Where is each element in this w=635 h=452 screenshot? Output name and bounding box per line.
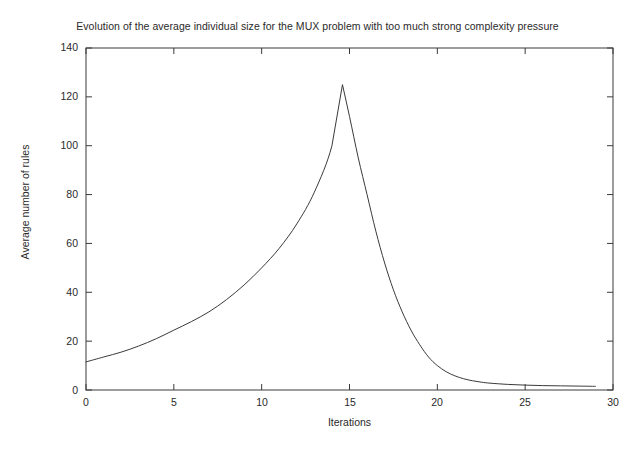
data-series-line	[86, 85, 595, 387]
plot-area	[0, 0, 635, 452]
plot-frame	[86, 48, 613, 390]
axis-tick-marks	[86, 48, 613, 390]
chart-figure: Evolution of the average individual size…	[0, 0, 635, 452]
